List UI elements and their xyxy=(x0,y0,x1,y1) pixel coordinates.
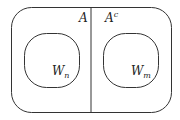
set-w-n xyxy=(25,34,80,88)
label-w-n: Wn xyxy=(52,64,70,80)
label-a-complement: Ac xyxy=(104,10,119,25)
label-a: A xyxy=(78,11,88,25)
label-w-m: Wm xyxy=(131,64,151,80)
venn-diagram: A Ac Wn Wm xyxy=(0,0,180,120)
